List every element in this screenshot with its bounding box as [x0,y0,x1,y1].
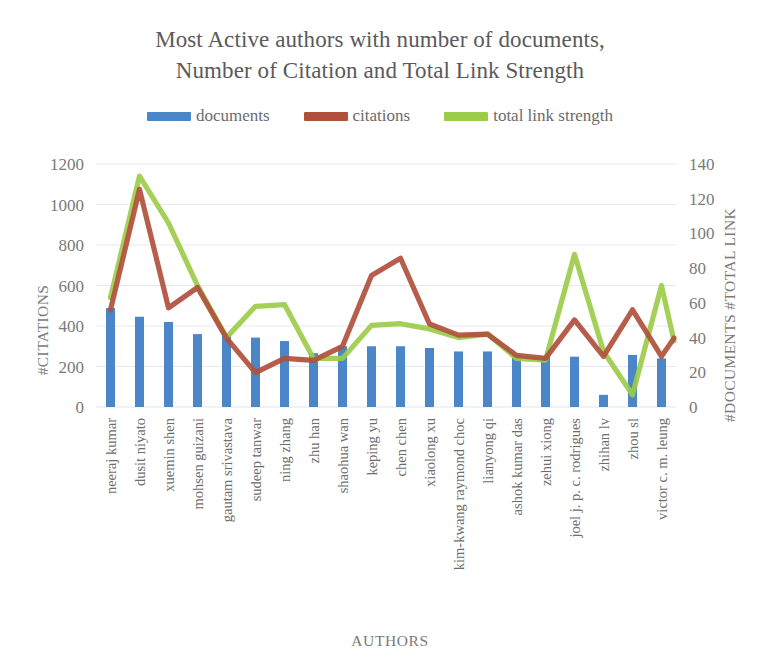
x-axis-category-label: zhou sl [625,418,641,459]
x-axis-title: AUTHORS [351,632,428,649]
x-axis-category-label: gautam srivastava [219,417,235,522]
y-axis-right-tick: 120 [689,190,715,209]
x-axis-category-label: zhihan lv [596,417,612,471]
x-axis-category-labels: neeraj kumardusit niyatoxuemin shenmohse… [103,417,670,570]
y-axis-right-tick: 140 [689,155,715,174]
y-axis-right-tick: 60 [689,294,706,313]
x-axis-category-label: mohsen guizani [190,418,206,509]
x-axis-category-label: xiaolong xu [422,418,438,487]
x-axis-category-label: sudeep tanwar [248,418,264,502]
y-axis-right-ticks: 020406080100120140 [689,155,715,417]
x-axis-category-label: kim-kwang raymond choc [451,418,467,570]
x-axis-category-label: zehui xiong [538,418,554,486]
chart-container: Most Active authors with number of docum… [0,0,758,669]
y-axis-right-tick: 100 [689,224,715,243]
x-axis-category-label: keping yu [364,418,380,476]
chart-plot: 020040060080010001200 020406080100120140… [0,0,758,669]
y-axis-left-tick: 400 [59,317,85,336]
x-axis-category-label: xuemin shen [161,417,177,491]
x-axis-category-label: chen chen [393,417,409,476]
x-axis-category-label: joel j. p. c. rodrigues [567,418,583,539]
gridlines [96,164,676,407]
y-axis-left-tick: 0 [76,398,85,417]
y-axis-left-tick: 200 [59,358,85,377]
y-axis-right-tick: 80 [689,259,706,278]
y-axis-left-tick: 1000 [50,196,84,215]
x-axis-category-label: ning zhang [277,418,293,482]
x-axis-category-label: lianyong qi [480,418,496,484]
y-axis-left-ticks: 020040060080010001200 [50,155,84,417]
y-axis-right-tick: 0 [689,398,698,417]
y-axis-right-tick: 20 [689,363,706,382]
y-axis-left-tick: 600 [59,277,85,296]
x-axis-category-label: shaohua wan [335,417,351,493]
y-axis-left-title: #CITATIONS [34,285,51,376]
x-axis-category-label: victor c. m. leung [654,418,670,520]
y-axis-right-title: #DOCUMENTS #TOTAL LINK [721,207,738,422]
y-axis-left-tick: 1200 [50,155,84,174]
x-axis-category-label: dusit niyato [132,418,148,486]
x-axis-category-label: zhu han [306,417,322,463]
y-axis-left-tick: 800 [59,236,85,255]
x-axis-category-label: neeraj kumar [103,418,119,494]
y-axis-right-tick: 40 [689,329,706,348]
x-axis-category-label: ashok kumar das [509,418,525,516]
